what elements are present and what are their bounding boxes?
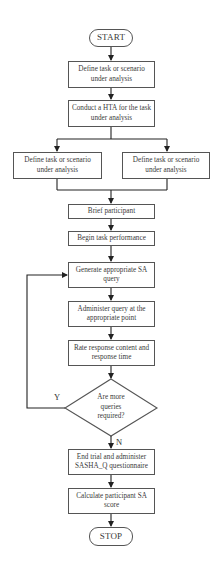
define-task-box: Define task or scenario under analysis bbox=[68, 61, 155, 88]
decision-text: Are more queries required? bbox=[91, 393, 131, 422]
yes-label: Y bbox=[54, 392, 60, 402]
define-task-right-box: Define task or scenario under analysis bbox=[122, 152, 210, 179]
begin-task-box: Begin task performance bbox=[68, 231, 155, 246]
conduct-hta-box: Conduct a HTA for the task under analysi… bbox=[68, 100, 155, 127]
rate-response-box: Rate response content and response time bbox=[68, 340, 155, 366]
start-terminal: START bbox=[89, 29, 133, 47]
generate-query-box: Generate appropriate SA query bbox=[68, 262, 155, 288]
brief-participant-box: Brief participant bbox=[68, 204, 155, 219]
administer-query-box: Administer query at the appropriate poin… bbox=[68, 301, 155, 327]
stop-terminal: STOP bbox=[89, 527, 133, 546]
calculate-score-box: Calculate participant SA score bbox=[68, 488, 155, 514]
no-label: N bbox=[116, 437, 122, 447]
end-trial-box: End trial and administer SASHA_Q questio… bbox=[68, 449, 155, 475]
define-task-left-box: Define task or scenario under analysis bbox=[13, 152, 102, 179]
